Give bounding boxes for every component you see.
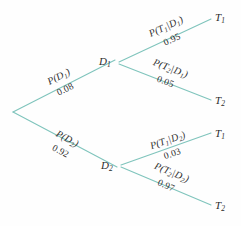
node-label-t1-lower: T1 <box>215 127 225 141</box>
tree-branches <box>0 0 241 226</box>
node-label-t1-top: T1 <box>215 11 225 25</box>
node-label-d2: D2 <box>101 159 113 173</box>
node-label-t2-bottom: T2 <box>215 199 225 213</box>
node-label-t2-upper: T2 <box>215 94 225 108</box>
probability-tree-figure: D1 D2 T1 T2 T1 T2 P(D1) 0.08 P(D2) 0.92 … <box>0 0 241 226</box>
node-label-d1: D1 <box>99 55 111 69</box>
